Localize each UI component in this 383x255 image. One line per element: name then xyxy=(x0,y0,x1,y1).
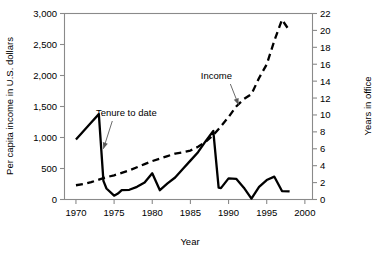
y2-tick-label-12: 12 xyxy=(320,93,331,104)
y2-tick-label-0: 0 xyxy=(320,194,325,205)
y-tick-label-500: 500 xyxy=(41,163,57,174)
x-tick-label-1970: 1970 xyxy=(65,207,86,218)
y-tick-label-1500: 1,500 xyxy=(33,101,57,112)
x-tick-label-2000: 2000 xyxy=(294,207,315,218)
x-tick-label-1995: 1995 xyxy=(256,207,277,218)
y-tick-label-0: 0 xyxy=(52,194,57,205)
y2-tick-label-20: 20 xyxy=(320,25,331,36)
y-tick-label-3000: 3,000 xyxy=(33,8,57,19)
y2-tick-label-6: 6 xyxy=(320,143,325,154)
y-tick-label-1000: 1,000 xyxy=(33,132,57,143)
chart-container: 1970197519801985199019952000 05001,0001,… xyxy=(0,0,383,255)
x-tick-label-1985: 1985 xyxy=(180,207,201,218)
x-tick-label-1975: 1975 xyxy=(104,207,125,218)
y-axis-left-title: Per capita income in U.S. dollars xyxy=(4,37,15,175)
y2-tick-label-14: 14 xyxy=(320,76,331,87)
y-axis-right-title: Years in office xyxy=(362,76,373,135)
y2-tick-label-16: 16 xyxy=(320,59,331,70)
x-axis-title: Year xyxy=(180,236,199,247)
dual-axis-line-chart: 1970197519801985199019952000 05001,0001,… xyxy=(0,0,383,255)
y-tick-label-2500: 2,500 xyxy=(33,39,57,50)
annotation-label-income: Income xyxy=(201,70,232,81)
y2-tick-label-2: 2 xyxy=(320,177,325,188)
y-tick-label-2000: 2,000 xyxy=(33,70,57,81)
x-tick-label-1990: 1990 xyxy=(218,207,239,218)
x-tick-label-1980: 1980 xyxy=(142,207,163,218)
y2-tick-label-10: 10 xyxy=(320,109,331,120)
annotation-label-tenure-to-date: Tenure to date xyxy=(96,107,157,118)
y2-tick-label-8: 8 xyxy=(320,126,325,137)
y2-tick-label-22: 22 xyxy=(320,8,331,19)
y2-tick-label-18: 18 xyxy=(320,42,331,53)
y2-tick-label-4: 4 xyxy=(320,160,325,171)
